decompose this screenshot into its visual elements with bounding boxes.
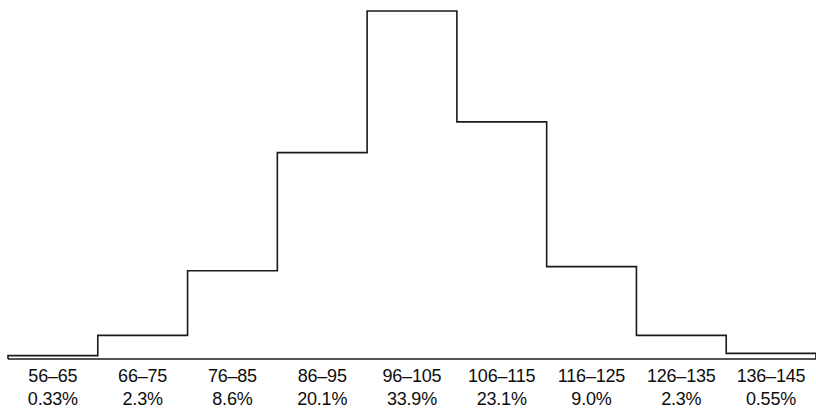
bin-percent-label: 23.1% [457,388,547,410]
bin-range-label: 66–75 [98,365,188,387]
bin-percent-label: 33.9% [367,388,457,410]
bin-range-label: 116–125 [547,365,637,387]
bin-range-label: 96–105 [367,365,457,387]
histogram-axis-labels: 56–6566–7576–8586–9596–105106–115116–125… [0,363,816,417]
bin-percent-label: 2.3% [636,388,726,410]
bin-range-label: 106–115 [457,365,547,387]
bin-range-label: 56–65 [8,365,98,387]
label-row-offset [0,365,8,387]
histogram-bars-outline [8,11,816,359]
bin-percent-label: 20.1% [277,388,367,410]
histogram-plot-area [0,0,816,365]
bin-percent-label: 8.6% [188,388,278,410]
bin-percent-labels: 0.33%2.3%8.6%20.1%33.9%23.1%9.0%2.3%0.55… [0,388,816,410]
bin-range-label: 86–95 [277,365,367,387]
label-row-offset [0,388,8,410]
bin-percent-label: 0.33% [8,388,98,410]
bin-percent-label: 9.0% [547,388,637,410]
bin-percent-label: 2.3% [98,388,188,410]
bin-range-labels: 56–6566–7576–8586–9596–105106–115116–125… [0,365,816,387]
bin-range-label: 126–135 [636,365,726,387]
histogram-svg [0,0,816,365]
bin-range-label: 136–145 [726,365,816,387]
bin-range-label: 76–85 [188,365,278,387]
bin-percent-label: 0.55% [726,388,816,410]
histogram-figure: 56–6566–7576–8586–9596–105106–115116–125… [0,0,816,417]
